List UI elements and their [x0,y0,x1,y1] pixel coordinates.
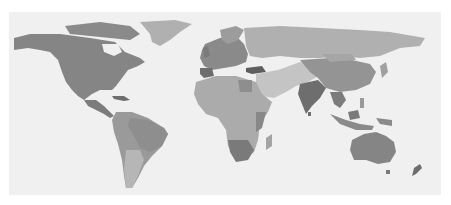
region-egypt[interactable] [238,80,252,92]
region-north-america[interactable] [14,34,145,100]
region-southeast-asia[interactable] [330,92,346,108]
region-new-guinea[interactable] [376,118,392,126]
region-greenland[interactable] [140,20,192,46]
region-iberia[interactable] [200,68,214,78]
region-new-zealand[interactable] [412,164,422,176]
region-japan[interactable] [380,62,388,78]
region-philippines[interactable] [360,98,364,108]
region-sri-lanka[interactable] [308,112,311,116]
region-borneo[interactable] [348,110,360,120]
world-map[interactable] [0,0,451,205]
region-caribbean[interactable] [112,96,130,101]
region-madagascar[interactable] [266,134,272,150]
region-india[interactable] [298,80,326,114]
region-australia[interactable] [350,132,396,164]
region-russia[interactable] [244,26,425,58]
region-central-america[interactable] [84,100,114,118]
region-tasmania[interactable] [386,170,390,174]
region-east-africa[interactable] [256,112,266,132]
